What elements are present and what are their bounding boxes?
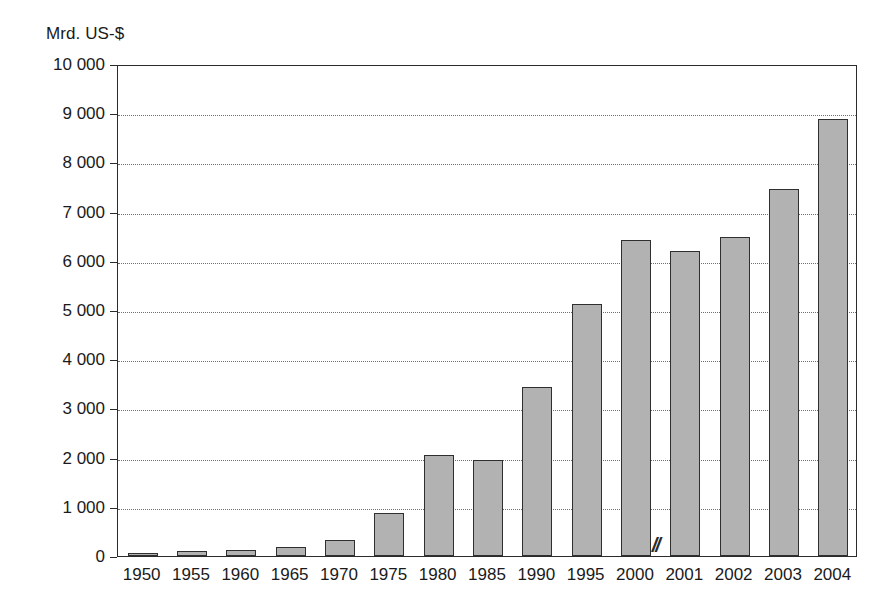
y-axis-tick-mark <box>110 213 117 214</box>
bar <box>128 553 158 556</box>
y-axis-tick-mark <box>110 409 117 410</box>
gridline <box>118 115 856 116</box>
x-axis-tick-label: 2003 <box>764 565 802 585</box>
y-axis-tick-mark <box>110 311 117 312</box>
bar <box>473 460 503 556</box>
bar <box>621 240 651 556</box>
y-axis-tick-mark <box>110 65 117 66</box>
y-axis-tick-label: 0 <box>27 547 105 567</box>
y-axis-tick-mark <box>110 360 117 361</box>
bar <box>769 189 799 556</box>
bar <box>276 547 306 556</box>
y-axis-tick-mark <box>110 508 117 509</box>
y-axis-tick-label: 1 000 <box>27 498 105 518</box>
bar <box>522 387 552 556</box>
x-axis-tick-label: 1970 <box>320 565 358 585</box>
bar <box>374 513 404 556</box>
y-axis-tick-label: 5 000 <box>27 301 105 321</box>
y-axis-tick-label: 8 000 <box>27 153 105 173</box>
x-axis-tick-label: 1980 <box>419 565 457 585</box>
y-axis-tick-mark <box>110 262 117 263</box>
x-axis-tick-label: 2002 <box>715 565 753 585</box>
y-axis-tick-label: 4 000 <box>27 350 105 370</box>
gridline <box>118 164 856 165</box>
bar <box>177 551 207 556</box>
x-axis-tick-labels: 1950195519601965197019751980198519901995… <box>117 565 857 595</box>
x-axis-tick-label: 1950 <box>123 565 161 585</box>
y-axis-tick-label: 3 000 <box>27 399 105 419</box>
y-axis-tick-label: 7 000 <box>27 203 105 223</box>
bar-chart-figure: Mrd. US-$ 01 0002 0003 0004 0005 0006 00… <box>0 0 895 610</box>
plot-area <box>117 65 857 557</box>
bar <box>720 237 750 556</box>
x-axis-tick-label: 2001 <box>665 565 703 585</box>
x-axis-tick-label: 1995 <box>567 565 605 585</box>
axis-break-icon: // <box>652 535 659 555</box>
x-axis-tick-label: 1955 <box>172 565 210 585</box>
y-axis-tick-label: 9 000 <box>27 104 105 124</box>
y-axis-tick-label: 10 000 <box>27 55 105 75</box>
bar <box>670 251 700 556</box>
x-axis-tick-label: 1965 <box>271 565 309 585</box>
x-axis-tick-label: 1985 <box>468 565 506 585</box>
x-axis-tick-label: 2004 <box>813 565 851 585</box>
bar <box>818 119 848 556</box>
y-axis-tick-mark <box>110 163 117 164</box>
bar <box>424 455 454 556</box>
y-axis-tick-label: 6 000 <box>27 252 105 272</box>
x-axis-tick-label: 1960 <box>221 565 259 585</box>
gridline <box>118 214 856 215</box>
x-axis-tick-label: 2000 <box>616 565 654 585</box>
y-axis-tick-mark <box>110 557 117 558</box>
y-axis-tick-label: 2 000 <box>27 449 105 469</box>
y-axis-tick-mark <box>110 114 117 115</box>
y-axis-unit-label: Mrd. US-$ <box>46 24 124 44</box>
y-axis-tick-labels: 01 0002 0003 0004 0005 0006 0007 0008 00… <box>27 65 105 557</box>
y-axis-tick-mark <box>110 459 117 460</box>
bar <box>325 540 355 556</box>
bar <box>572 304 602 556</box>
bar <box>226 550 256 556</box>
x-axis-tick-label: 1975 <box>369 565 407 585</box>
x-axis-tick-label: 1990 <box>517 565 555 585</box>
